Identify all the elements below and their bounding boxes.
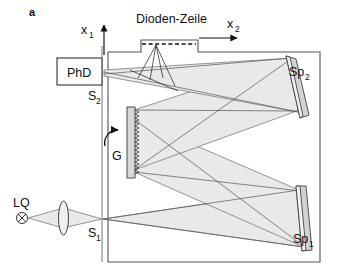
axis-x1-label-sub: 1 [89,30,94,40]
axis-x1-label: x [81,23,88,37]
optical-diagram-figure: a x 1 x 2 Dioden-Zeile PhD S 2 G Sp 2 Sp… [0,0,339,269]
mirror-sp2-label-sub: 2 [305,72,310,82]
panel-label: a [29,6,36,18]
light-source-symbol [17,213,28,224]
grating-rotation-arrow [105,130,118,146]
diode-array-label: Dioden-Zeile [136,12,207,26]
axis-x2-label-sub: 2 [235,24,240,34]
mirror-sp2-label: Sp [289,65,304,79]
entrance-slit-label-sub: 1 [96,233,101,243]
light-source-label: LQ [13,196,30,210]
exit-slit-label-sub: 2 [96,96,101,106]
axis-x2-label: x [227,17,234,31]
grating-label: G [112,149,122,163]
photodiode-label: PhD [67,66,91,80]
mirror-sp1-label: Sp [293,232,308,246]
mirror-sp1-label-sub: 1 [309,239,314,249]
lens [59,201,69,235]
